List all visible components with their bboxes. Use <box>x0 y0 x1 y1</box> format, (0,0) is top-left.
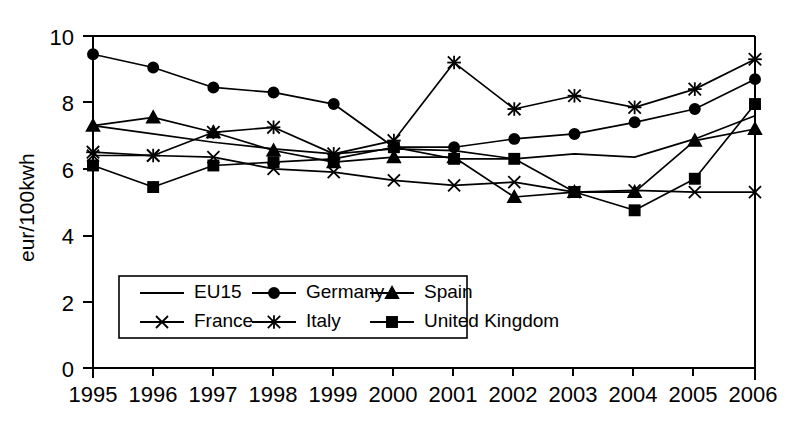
data-point <box>629 117 639 127</box>
legend-marker-icon <box>387 317 397 327</box>
data-point <box>748 52 762 66</box>
y-axis-title: eur/100kwh <box>15 153 38 262</box>
x-tick-label: 1996 <box>129 382 178 407</box>
data-point <box>629 205 639 215</box>
x-tick-label: 2001 <box>429 382 478 407</box>
y-tick-label: 10 <box>50 25 74 50</box>
y-tick-label: 4 <box>62 224 74 249</box>
data-point <box>750 99 760 109</box>
legend-marker-icon <box>267 315 281 329</box>
data-point <box>86 145 100 159</box>
y-tick-label: 2 <box>62 291 74 316</box>
x-tick-label: 1999 <box>309 382 358 407</box>
legend-label: France <box>194 310 253 331</box>
data-point <box>449 154 459 164</box>
legend-label: EU15 <box>194 281 242 302</box>
data-point <box>148 62 158 72</box>
data-point <box>509 154 519 164</box>
data-point <box>208 82 218 92</box>
data-point <box>268 87 278 97</box>
x-tick-label: 2005 <box>669 382 718 407</box>
data-point <box>447 56 461 70</box>
data-point <box>208 160 218 170</box>
legend-frame <box>119 276 467 338</box>
series-layer <box>86 49 762 215</box>
data-point <box>569 129 579 139</box>
x-tick-label: 2002 <box>489 382 538 407</box>
data-point <box>88 49 98 59</box>
data-point <box>329 99 339 109</box>
y-tick-marks <box>83 36 93 368</box>
data-point <box>690 174 700 184</box>
data-point <box>88 160 98 170</box>
x-tick-label: 2004 <box>609 382 658 407</box>
series-italy <box>86 52 762 162</box>
data-point <box>389 142 399 152</box>
y-tick-label: 8 <box>62 91 74 116</box>
data-point <box>507 102 521 116</box>
y-tick-label: 0 <box>62 357 74 382</box>
data-point <box>568 89 582 103</box>
data-point <box>509 134 519 144</box>
legend-label: United Kingdom <box>424 310 559 331</box>
x-tick-marks <box>93 368 755 380</box>
data-point <box>146 149 160 163</box>
chart-figure: eur/100kwh 10 8 6 4 2 0 <box>0 0 810 421</box>
data-point <box>268 157 278 167</box>
legend-marker-icon <box>269 288 279 298</box>
x-tick-labels: 1995 1996 1997 1998 1999 2000 2001 2002 … <box>69 382 778 407</box>
x-tick-label: 1998 <box>249 382 298 407</box>
y-tick-label: 6 <box>62 158 74 183</box>
data-point <box>628 101 642 115</box>
x-tick-label: 1997 <box>189 382 238 407</box>
y-tick-labels: 10 8 6 4 2 0 <box>50 25 74 382</box>
data-point <box>148 182 158 192</box>
x-tick-label: 2006 <box>729 382 778 407</box>
data-point <box>569 187 579 197</box>
data-point <box>690 104 700 114</box>
x-tick-label: 2003 <box>549 382 598 407</box>
x-tick-label: 2000 <box>369 382 418 407</box>
x-tick-label: 1995 <box>69 382 118 407</box>
legend-label: Germany <box>306 281 385 302</box>
chart-legend: EU15GermanySpainFranceItalyUnited Kingdo… <box>119 276 559 338</box>
data-point <box>147 111 160 123</box>
data-point <box>688 82 702 96</box>
data-point <box>749 122 762 134</box>
data-point <box>207 125 221 139</box>
line-chart: eur/100kwh 10 8 6 4 2 0 <box>0 0 810 421</box>
data-point <box>267 121 281 135</box>
legend-label: Italy <box>306 310 341 331</box>
data-point <box>329 154 339 164</box>
legend-label: Spain <box>424 281 473 302</box>
data-point <box>750 74 760 84</box>
